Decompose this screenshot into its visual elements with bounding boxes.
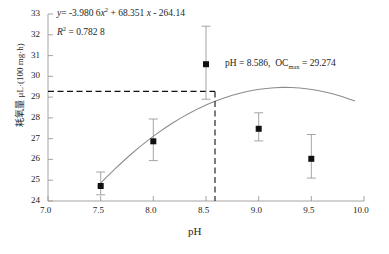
x-axis-title: pH <box>188 226 201 237</box>
y-axis-title-text: 耗氧量 μL·(100 mg·h) <box>15 43 25 126</box>
vertex-oc-symbol: OC <box>275 58 288 68</box>
y-tick-label: 26 <box>31 154 40 163</box>
y-axis-ticks <box>48 14 53 201</box>
x-tick-label: 9.5 <box>303 206 314 215</box>
x-tick-label: 7.5 <box>93 206 104 215</box>
x-tick-label: 9.0 <box>251 206 262 215</box>
equation-exponent: 2 <box>105 6 108 13</box>
y-axis-title: 耗氧量 μL·(100 mg·h) <box>9 15 23 155</box>
equation-equals: = <box>61 8 66 18</box>
data-point <box>256 126 262 132</box>
equation-coef-b: 68.351 <box>118 8 144 18</box>
data-point <box>98 183 104 189</box>
y-tick-label: 32 <box>31 30 40 39</box>
y-tick-label: 31 <box>31 51 40 60</box>
error-bars <box>96 26 316 195</box>
data-point <box>203 61 209 67</box>
y-tick-label: 28 <box>31 113 40 122</box>
vertex-oc-value: = 29.274 <box>302 58 336 68</box>
y-tick-label: 27 <box>31 134 40 143</box>
x-tick-label: 8.5 <box>198 206 209 215</box>
chart-figure: 33 32 31 30 29 28 27 26 25 24 7.0 7.5 8.… <box>0 0 389 254</box>
x-tick-label: 8.0 <box>145 206 156 215</box>
equation-coef-a: -3.980 6 <box>69 8 101 18</box>
vertex-annotation: pH = 8.586, OCmax = 29.274 <box>225 59 336 69</box>
equation-coef-c: 264.14 <box>159 8 185 18</box>
y-tick-label: 33 <box>31 9 40 18</box>
x-tick-label: 10.0 <box>353 206 369 215</box>
chart-plot-area <box>0 0 389 254</box>
fit-curve <box>98 87 355 186</box>
y-tick-label: 30 <box>31 71 40 80</box>
x-tick-label: 7.0 <box>40 206 51 215</box>
equation-x-symbol-2: x <box>147 8 151 18</box>
y-tick-label: 24 <box>31 196 40 205</box>
y-tick-label: 29 <box>31 92 40 101</box>
regression-equation: y= -3.980 6x2 + 68.351 x - 264.14 <box>57 9 185 19</box>
data-point <box>150 138 156 144</box>
r-squared-value: 0.782 8 <box>76 27 105 37</box>
vertex-oc-subscript: max <box>288 63 299 70</box>
y-tick-label: 25 <box>31 175 40 184</box>
vertex-ph-text: pH = 8.586, <box>225 58 270 68</box>
r-exponent: 2 <box>63 25 66 32</box>
r-squared-label: R2 = 0.782 8 <box>57 28 105 38</box>
x-axis-ticks <box>48 196 364 201</box>
data-point <box>308 156 314 162</box>
